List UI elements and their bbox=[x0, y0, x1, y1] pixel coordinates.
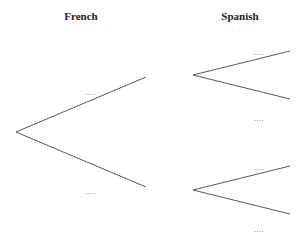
branch-label: .... bbox=[85, 88, 95, 97]
trees-group: ........................ bbox=[16, 48, 290, 234]
header-french: French bbox=[64, 10, 97, 22]
french-tree: ........ bbox=[16, 77, 146, 196]
spanish-tree-lower: ........ bbox=[193, 163, 290, 234]
branch-label: .... bbox=[254, 48, 264, 57]
branch-label: .... bbox=[254, 225, 264, 234]
spanish-tree-upper: ........ bbox=[193, 48, 290, 123]
tree-branch bbox=[193, 75, 290, 99]
tree-diagram: French Spanish ........................ bbox=[0, 0, 300, 245]
tree-branch bbox=[193, 190, 290, 214]
branch-label: .... bbox=[85, 187, 95, 196]
branch-label: .... bbox=[254, 163, 264, 172]
tree-branch bbox=[193, 166, 290, 190]
tree-branch bbox=[16, 77, 146, 132]
diagram-svg: French Spanish ........................ bbox=[0, 0, 300, 245]
tree-branch bbox=[16, 132, 146, 187]
header-spanish: Spanish bbox=[221, 10, 258, 22]
tree-branch bbox=[193, 51, 290, 75]
branch-label: .... bbox=[254, 114, 264, 123]
